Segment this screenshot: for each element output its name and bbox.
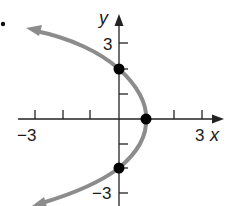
x-axis-label: x xyxy=(209,125,220,145)
y-axis-arrow-icon xyxy=(115,14,124,26)
curve-arrow-top-icon xyxy=(26,25,42,36)
point-0-neg2 xyxy=(114,163,125,174)
point-0-2 xyxy=(114,64,125,75)
y-axis-label: y xyxy=(97,8,109,28)
curve-arrow-bottom-icon xyxy=(32,197,47,206)
bullet-dot xyxy=(1,22,5,26)
x-tick-label-3: 3 xyxy=(195,126,204,145)
x-axis-arrow-icon xyxy=(212,115,224,124)
y-axis xyxy=(115,14,129,206)
y-tick-label-neg3: −3 xyxy=(92,184,111,203)
x-tick-label-neg3: −3 xyxy=(17,126,36,145)
parabola-curve xyxy=(26,25,146,206)
x-axis xyxy=(18,110,224,124)
parabola-graph: y 3 −3 −3 3 x xyxy=(0,0,228,206)
point-1-0 xyxy=(141,114,152,125)
y-tick-label-3: 3 xyxy=(103,35,112,54)
